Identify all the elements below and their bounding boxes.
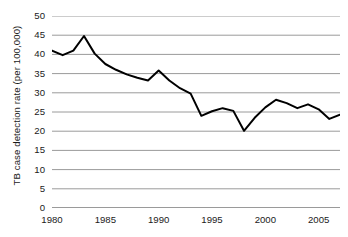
x-tick-label: 2005: [308, 215, 329, 225]
chart-figure: TB case detection rate (per 100,000) 051…: [0, 0, 348, 237]
x-tick-label: 1980: [41, 215, 62, 225]
x-tick-labels: 198019851990199520002005: [0, 0, 348, 237]
x-tick-label: 2000: [255, 215, 276, 225]
x-tick-label: 1985: [95, 215, 116, 225]
x-tick-label: 1995: [201, 215, 222, 225]
x-tick-label: 1990: [148, 215, 169, 225]
